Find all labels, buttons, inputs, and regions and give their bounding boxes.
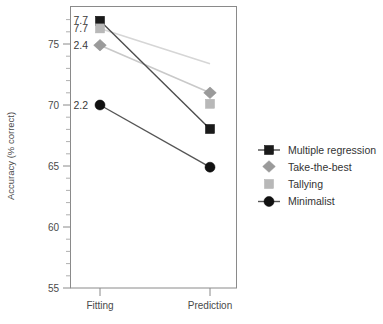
legend-item-minimalist[interactable]: Minimalist (258, 195, 335, 207)
legend-item-take-the-best[interactable]: Take-the-best (263, 161, 352, 173)
chart-legend: Multiple regression Take-the-best Tallyi… (258, 144, 376, 208)
x-tick-label-prediction: Prediction (188, 300, 232, 311)
data-point-tallying-prediction (206, 99, 215, 108)
legend-label-minimalist: Minimalist (288, 195, 335, 207)
legend-item-multiple-regression[interactable]: Multiple regression (258, 144, 376, 156)
y-axis-ticks: 75 70 65 60 55 (48, 39, 71, 294)
data-point-minimalist-fitting (95, 100, 105, 110)
legend-item-tallying[interactable]: Tallying (265, 178, 324, 190)
point-label-minimalist: 2.2 (73, 99, 88, 111)
y-axis-minor-ticks (66, 20, 71, 276)
plot-frame (71, 7, 237, 289)
legend-label-tallying: Tallying (288, 178, 323, 190)
point-label-tallying: 7.7 (73, 22, 88, 34)
diamond-marker-icon (263, 161, 276, 173)
data-point-take-the-best-prediction (204, 87, 217, 99)
y-tick-label-75: 75 (48, 39, 60, 50)
y-tick-label-65: 65 (48, 161, 60, 172)
chart-figure: 75 70 65 60 55 (0, 0, 383, 324)
y-tick-label-70: 70 (48, 100, 60, 111)
square-marker-icon-light (265, 180, 274, 189)
data-point-tallying-fitting (96, 24, 105, 33)
y-tick-label-55: 55 (48, 283, 60, 294)
data-point-multiple-regression-prediction (206, 125, 215, 134)
series-line-minimalist (100, 105, 210, 167)
series-line-take-the-best (100, 45, 210, 93)
y-tick-label-60: 60 (48, 222, 60, 233)
legend-label-multiple-regression: Multiple regression (288, 144, 376, 156)
series-line-tallying (100, 28, 210, 63)
x-axis-ticks (100, 288, 210, 296)
accuracy-line-chart: 75 70 65 60 55 (0, 0, 383, 324)
y-axis-title: Accuracy (% correct) (5, 112, 16, 200)
legend-label-take-the-best: Take-the-best (288, 161, 352, 173)
square-marker-icon (265, 146, 274, 155)
circle-marker-icon (264, 197, 274, 207)
x-tick-label-fitting: Fitting (86, 300, 113, 311)
data-point-take-the-best-fitting (94, 39, 107, 51)
series-line-multiple-regression (100, 21, 210, 129)
point-label-take-the-best: 2.4 (73, 39, 88, 51)
data-point-minimalist-prediction (205, 162, 215, 172)
